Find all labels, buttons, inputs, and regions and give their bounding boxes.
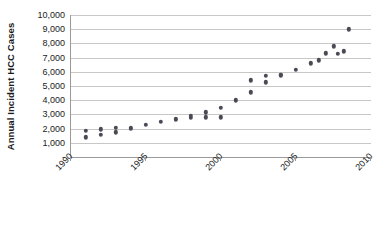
gridline: [71, 15, 371, 16]
data-point: [114, 130, 118, 134]
y-axis-tick-label: 3,000: [42, 110, 65, 119]
data-point: [144, 123, 148, 127]
gridline: [71, 143, 371, 144]
x-axis-tick-mark: [145, 157, 146, 161]
y-axis-tick-label: 2,000: [42, 124, 65, 133]
plot-area: [70, 15, 371, 157]
data-point: [84, 135, 88, 139]
gridline: [71, 86, 371, 87]
data-point: [84, 129, 88, 133]
data-point: [331, 44, 335, 48]
y-axis-tick-label: 9,000: [42, 25, 65, 34]
y-axis-tick-label: 4,000: [42, 96, 65, 105]
y-axis-tick-label: 8,000: [42, 39, 65, 48]
data-point: [264, 80, 268, 84]
data-point: [234, 98, 238, 102]
gridline: [71, 100, 371, 101]
y-axis-title: Annual Incident HCC Cases: [0, 0, 22, 172]
data-point: [189, 116, 193, 120]
data-point: [316, 58, 320, 62]
data-point: [264, 74, 268, 78]
y-axis-tick-label: 5,000: [42, 82, 65, 91]
data-point: [249, 78, 253, 82]
data-point: [99, 133, 103, 137]
data-point: [324, 51, 328, 55]
plot-inner: [71, 15, 371, 157]
data-point: [309, 61, 313, 65]
x-axis-tick-mark: [370, 157, 371, 161]
data-point: [346, 27, 350, 31]
data-point: [219, 115, 223, 119]
data-point: [99, 127, 103, 131]
data-point: [204, 115, 208, 119]
x-axis-tick-mark: [70, 157, 71, 161]
hcc-incidence-scatter-chart: Annual Incident HCC Cases 10,0009,0008,0…: [0, 0, 378, 232]
data-point: [336, 52, 340, 56]
y-axis-tick-label: 1,000: [42, 138, 65, 147]
y-axis-tick-label: 6,000: [42, 67, 65, 76]
data-point: [159, 119, 163, 123]
gridline: [71, 29, 371, 30]
y-axis-tick-label: 10,000: [37, 11, 65, 20]
data-point: [249, 90, 253, 94]
data-point: [174, 118, 178, 122]
x-axis-tick-mark: [295, 157, 296, 161]
x-axis-tick-mark: [220, 157, 221, 161]
y-axis-tick-labels: 10,0009,0008,0007,0006,0005,0004,0003,00…: [22, 9, 68, 163]
gridline: [71, 58, 371, 59]
y-axis-tick-label: 7,000: [42, 53, 65, 62]
data-point: [342, 49, 346, 53]
y-axis-title-label: Annual Incident HCC Cases: [6, 22, 17, 150]
data-point: [129, 126, 133, 130]
data-point: [219, 106, 223, 110]
gridline: [71, 72, 371, 73]
gridline: [71, 43, 371, 44]
